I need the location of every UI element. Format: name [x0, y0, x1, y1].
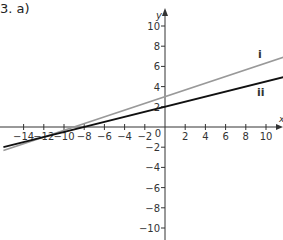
x-tick-label: −4	[117, 131, 132, 142]
x-axis-label: x	[278, 114, 283, 124]
y-tick-label: −4	[145, 162, 160, 173]
x-tick-label: −2	[137, 131, 152, 142]
y-tick-label: 6	[154, 61, 160, 72]
x-tick-label: −6	[97, 131, 112, 142]
x-tick-label: 4	[202, 131, 208, 142]
series-label-ii: ii	[257, 86, 265, 99]
series-label-i: i	[258, 48, 262, 61]
y-tick-label: 4	[154, 82, 160, 93]
x-tick-label: −8	[77, 131, 92, 142]
y-tick-label: 2	[154, 102, 160, 113]
x-tick-label: 6	[222, 131, 228, 142]
x-tick-label: 8	[243, 131, 249, 142]
x-tick-label: 10	[260, 131, 273, 142]
x-tick-label: 0	[155, 128, 161, 139]
x-tick-label: 2	[182, 131, 188, 142]
y-tick-label: −10	[139, 223, 160, 234]
line-chart: yx−14−12−10−8−6−4−20246810−10−8−6−4−2246…	[0, 0, 283, 240]
y-tick-label: 10	[147, 21, 160, 32]
y-tick-label: 8	[154, 41, 160, 52]
y-tick-label: −2	[145, 142, 160, 153]
y-axis-arrow-icon	[162, 8, 168, 16]
y-axis-label: y	[155, 10, 163, 21]
y-tick-label: −8	[145, 203, 160, 214]
y-tick-label: −6	[145, 183, 160, 194]
x-axis-arrow-icon	[276, 124, 283, 130]
